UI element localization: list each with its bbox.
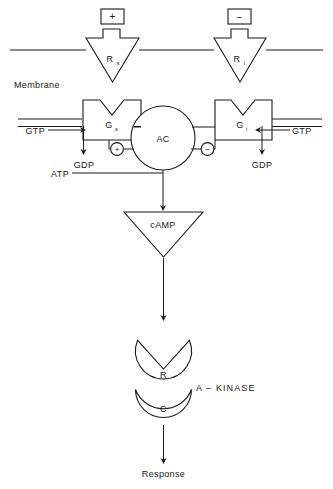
gtp-right-label: GTP (292, 126, 312, 136)
plus-ligand-sign: + (110, 11, 116, 22)
gs-ac-link (134, 127, 141, 128)
ac-label: AC (156, 134, 169, 144)
atp-label: ATP (51, 169, 69, 179)
gi-protein[interactable]: G i (215, 100, 272, 140)
ri-receptor-subscript: i (244, 60, 245, 66)
regulatory-subunit[interactable]: R (136, 340, 192, 380)
gi-protein-label: G (236, 120, 243, 130)
response-arrow-group: Response (142, 425, 185, 479)
inhibitory-receptor[interactable]: R i (214, 29, 266, 82)
rs-receptor-subscript: s (117, 60, 120, 66)
gdp-left-label: GDP (74, 160, 95, 170)
plus-path-from-gs (109, 140, 110, 149)
gdp-right-label: GDP (252, 160, 273, 170)
minus-ligand-sign: − (237, 12, 243, 23)
inhibitory-ligand-box[interactable]: − (228, 9, 251, 24)
c-subunit-label: C (160, 404, 167, 414)
camp-triangle[interactable] (124, 212, 203, 257)
gi-protein-subscript: i (246, 126, 247, 132)
gs-protein-label: G (105, 120, 112, 130)
camp-label: cAMP (150, 220, 175, 230)
stimulatory-receptor[interactable]: R s (86, 29, 139, 82)
adenylate-cyclase[interactable]: AC (131, 106, 195, 170)
activation-node[interactable]: + (109, 140, 134, 155)
response-label: Response (142, 469, 185, 479)
r-subunit-label: R (160, 370, 167, 380)
diagram-canvas: Membrane + − R s R i (0, 0, 333, 489)
a-kinase-label: A – KINASE (196, 383, 256, 393)
catalytic-subunit[interactable]: C (136, 390, 192, 418)
rs-receptor-label: R (107, 54, 114, 64)
membrane-group: Membrane (10, 50, 323, 90)
camp-node[interactable]: cAMP (124, 212, 203, 257)
ri-receptor-label: R (234, 54, 241, 64)
membrane-label: Membrane (14, 80, 60, 90)
gtp-left-label: GTP (25, 126, 45, 136)
atp-input: ATP (51, 169, 163, 179)
stimulatory-ligand-box[interactable]: + (101, 9, 124, 24)
signal-transduction-diagram: Membrane + − R s R i (0, 0, 333, 489)
gs-protein-subscript: s (115, 126, 118, 132)
plus-node-sign: + (115, 145, 120, 154)
minus-node-sign: − (205, 145, 210, 154)
